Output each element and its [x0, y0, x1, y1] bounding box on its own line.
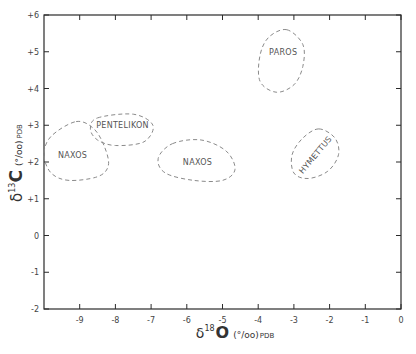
- x-tick-label: -9: [76, 316, 84, 325]
- x-title-units: (°/oo): [233, 330, 259, 340]
- y-tick-label: +3: [27, 121, 39, 130]
- chart-canvas: -9-8-7-6-5-4-3-2-10 +6+5+4+3+2+10-1-2 NA…: [0, 0, 416, 354]
- region-label: PENTELIKON: [96, 121, 149, 130]
- y-title-reference: PDB: [16, 124, 24, 139]
- x-tick-label: -8: [111, 316, 119, 325]
- x-tick-label: -6: [183, 316, 191, 325]
- region-label: HYMETTUS: [298, 135, 334, 176]
- region-label: NAXOS: [58, 151, 87, 160]
- x-tick-label: 0: [398, 316, 403, 325]
- y-title-units: (°/oo): [14, 140, 24, 166]
- x-title-element: O: [216, 323, 230, 342]
- isotope-scatter-chart: -9-8-7-6-5-4-3-2-10 +6+5+4+3+2+10-1-2 NA…: [0, 0, 416, 354]
- region-naxos: NAXOS: [158, 140, 235, 182]
- x-tick-label: -1: [361, 316, 369, 325]
- y-tick-label: 0: [34, 232, 39, 241]
- svg-text:δ18O(°/oo)PDB: δ18O(°/oo)PDB: [196, 323, 275, 342]
- y-tick-label: +1: [27, 195, 39, 204]
- svg-text:δ13C(°/oo)PDB: δ13C(°/oo)PDB: [6, 124, 26, 202]
- x-tick-label: -3: [290, 316, 298, 325]
- x-tick-label: -4: [254, 316, 262, 325]
- y-tick-label: -1: [31, 268, 39, 277]
- y-tick-label: +2: [27, 158, 39, 167]
- x-tick-label: -7: [147, 316, 155, 325]
- y-tick-label: +4: [27, 85, 39, 94]
- y-title-delta: δ: [8, 193, 26, 202]
- x-axis-title: δ18O(°/oo)PDB: [196, 323, 275, 342]
- plot-frame: [44, 15, 401, 309]
- region-label: PAROS: [269, 48, 297, 57]
- y-title-isotope: 13: [8, 183, 17, 193]
- y-tick-label: -2: [31, 305, 39, 314]
- region-label: NAXOS: [183, 158, 212, 167]
- x-title-reference: PDB: [260, 332, 275, 340]
- marble-source-regions: NAXOSPENTELIKONNAXOSPAROSHYMETTUS: [44, 29, 339, 181]
- y-tick-label: +5: [27, 48, 39, 57]
- x-title-isotope: 18: [204, 324, 214, 333]
- x-tick-label: -2: [326, 316, 334, 325]
- y-axis-title: δ13C(°/oo)PDB: [6, 124, 26, 202]
- y-tick-label: +6: [27, 11, 39, 20]
- x-title-delta: δ: [196, 325, 205, 341]
- region-outline: [258, 29, 304, 92]
- region-paros: PAROS: [258, 29, 304, 92]
- region-hymettus: HYMETTUS: [291, 129, 339, 179]
- region-pentelikon: PENTELIKON: [90, 114, 153, 146]
- y-title-element: C: [6, 170, 26, 182]
- x-axis-ticks: -9-8-7-6-5-4-3-2-10: [76, 15, 404, 325]
- y-axis-ticks: +6+5+4+3+2+10-1-2: [27, 11, 401, 314]
